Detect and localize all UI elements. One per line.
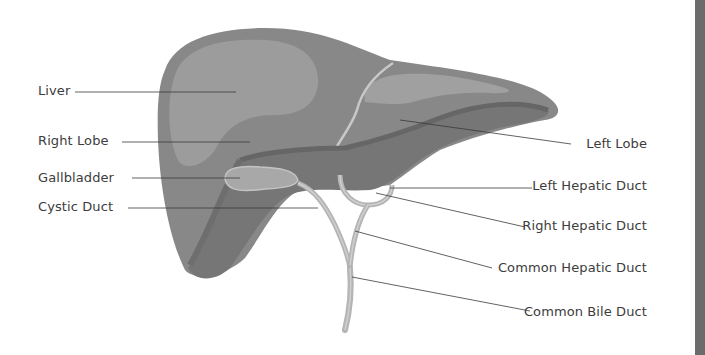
label-gallbladder: Gallbladder (38, 170, 114, 186)
label-right-hepatic-duct: Right Hepatic Duct (522, 218, 647, 234)
label-right-lobe: Right Lobe (38, 133, 109, 149)
leader-line-right-hepatic-duct (376, 193, 525, 227)
common-hepatic-duct-shape (350, 205, 368, 268)
gallbladder-shape (225, 166, 298, 190)
leader-line-common-hepatic-duct (355, 231, 492, 268)
label-left-hepatic-duct: Left Hepatic Duct (532, 178, 647, 194)
label-liver: Liver (38, 83, 70, 99)
label-cystic-duct: Cystic Duct (38, 199, 113, 215)
label-left-lobe: Left Lobe (586, 136, 647, 152)
label-common-hepatic-duct: Common Hepatic Duct (498, 260, 647, 276)
leader-line-common-bile-duct (352, 277, 530, 311)
label-common-bile-duct: Common Bile Duct (524, 304, 647, 320)
cystic-duct-shape (298, 183, 350, 268)
cystic-duct-edge (298, 183, 350, 268)
right-edge-bar (695, 0, 705, 355)
